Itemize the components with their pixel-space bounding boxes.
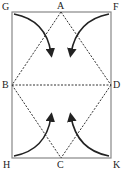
label-f: F [113,2,119,12]
label-g: G [2,2,9,12]
label-k: K [113,160,120,170]
arrow-k-icon [71,117,109,156]
arrow-h-icon [14,117,51,156]
label-c: C [57,160,64,170]
arrow-f-icon [71,14,109,53]
label-a: A [57,1,64,11]
label-b: B [2,80,9,90]
label-h: H [3,160,10,170]
fold-lines [12,12,111,158]
label-d: D [113,80,120,90]
arrow-g-icon [14,14,51,53]
folding-diagram [0,0,124,179]
